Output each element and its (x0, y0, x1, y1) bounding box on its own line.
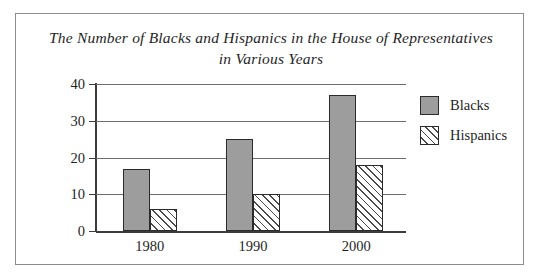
bar-hispanics-1990 (253, 194, 280, 231)
gridline-40 (96, 84, 406, 85)
y-tick-mark-20 (89, 158, 96, 159)
legend-item-blacks: Blacks (420, 90, 530, 120)
y-tick-label-30: 30 (71, 112, 86, 129)
bar-blacks-2000 (329, 95, 356, 231)
gridline-0 (96, 231, 406, 233)
bar-hispanics-1980 (150, 209, 177, 231)
y-tick-label-40: 40 (71, 76, 86, 93)
y-tick-label-20: 20 (71, 149, 86, 166)
chart-legend: BlacksHispanics (420, 90, 530, 150)
y-tick-mark-10 (89, 194, 96, 195)
legend-swatch-hispanics (420, 126, 439, 145)
legend-swatch-blacks (420, 96, 439, 115)
y-tick-mark-40 (89, 84, 96, 85)
y-tick-mark-0 (89, 231, 96, 232)
gridline-30 (96, 121, 406, 122)
plot-area: 010203040 198019902000 (96, 84, 406, 231)
y-tick-label-10: 10 (71, 186, 86, 203)
bar-blacks-1990 (226, 139, 253, 231)
bar-blacks-1980 (123, 169, 150, 231)
y-tick-label-0: 0 (78, 223, 85, 240)
x-tick-label-1990: 1990 (239, 238, 268, 255)
legend-label-blacks: Blacks (450, 97, 489, 114)
bar-hispanics-2000 (356, 165, 383, 231)
legend-label-hispanics: Hispanics (450, 127, 507, 144)
chart-title: The Number of Blacks and Hispanics in th… (44, 27, 498, 69)
legend-item-hispanics: Hispanics (420, 120, 530, 150)
y-tick-mark-30 (89, 121, 96, 122)
x-tick-label-2000: 2000 (342, 238, 371, 255)
x-tick-label-1980: 1980 (135, 238, 164, 255)
chart-frame: The Number of Blacks and Hispanics in th… (15, 13, 524, 265)
